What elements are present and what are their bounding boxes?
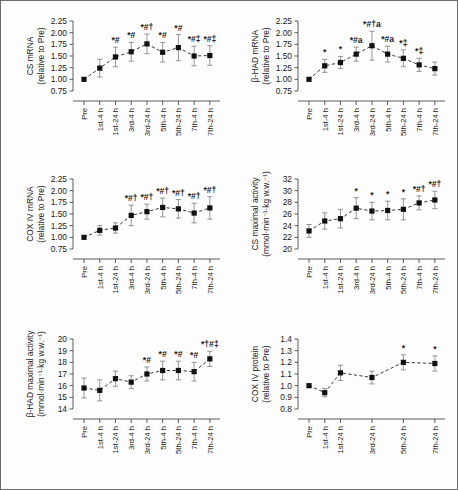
panel-cs-mrna: 0.751.001.251.501.752.002.25CS mRNA(rela…	[5, 5, 230, 163]
y-tick-label: 17	[58, 369, 68, 379]
y-tick-label: 1.25	[276, 63, 293, 73]
y-tick-label: 24	[283, 221, 293, 231]
panel-cs-maximal-activity-plot: 20222426283032CS maximal activity(mmol·m…	[230, 163, 455, 323]
y-tick-label: 1.50	[276, 51, 293, 61]
y-axis-label-line2: (relative to Pre)	[261, 27, 271, 84]
y-axis-label-line1: β-HAD maximal activity	[25, 330, 35, 418]
y-tick-label: 1.75	[276, 39, 293, 49]
data-point-marker	[207, 356, 212, 361]
x-tick-label: 1st-24 h	[336, 108, 345, 135]
significance-annotation: *#†a	[363, 19, 381, 29]
x-tick-label: 7th-4 h	[190, 266, 199, 290]
x-tick-label: 1st-24 h	[111, 266, 120, 293]
x-tick-label: 5th-24 h	[174, 266, 183, 294]
data-point-marker	[192, 369, 197, 374]
y-tick-label: 28	[283, 197, 293, 207]
y-tick-label: 1.00	[51, 74, 68, 84]
x-tick-label: 3rd-4 h	[127, 266, 136, 290]
y-tick-label: 1.50	[51, 51, 68, 61]
x-tick-label: 5th-4 h	[159, 266, 168, 290]
significance-annotation: *#‡	[203, 34, 216, 44]
x-tick-label: 1st-4 h	[96, 108, 105, 131]
x-tick-label: 7th-24 h	[206, 266, 215, 294]
x-tick-label: Pre	[305, 426, 314, 438]
data-point-marker	[81, 235, 86, 240]
data-point-marker	[401, 360, 406, 365]
data-point-marker	[129, 380, 134, 385]
data-point-marker	[322, 390, 327, 395]
y-tick-label: 1.4	[280, 334, 292, 344]
data-point-marker	[306, 77, 311, 82]
data-point-marker	[306, 228, 311, 233]
significance-annotation: *#	[143, 355, 151, 365]
panel-coxiv-mrna: 0.751.001.251.501.752.002.25COX IV mRNA(…	[5, 163, 230, 323]
x-tick-label: 5th-24 h	[399, 266, 408, 294]
data-point-marker	[354, 52, 359, 57]
y-tick-label: 1.25	[51, 63, 68, 73]
y-tick-label: 1.1	[280, 369, 292, 379]
y-tick-label: 26	[283, 209, 293, 219]
significance-annotation: *#†	[125, 193, 138, 203]
significance-annotation: *#	[159, 349, 167, 359]
x-tick-label: 5th-24 h	[174, 108, 183, 136]
data-point-marker	[97, 228, 102, 233]
significance-annotation: *#	[159, 30, 167, 40]
x-tick-label: 1st-4 h	[321, 266, 330, 289]
significance-annotation: *#	[174, 23, 182, 33]
x-tick-label: 7th-4 h	[190, 426, 199, 450]
significance-annotation: *	[386, 189, 390, 199]
x-tick-label: 3rd-4 h	[127, 426, 136, 450]
y-axis-label-line2: (mmol·min⁻¹·kg w.w.⁻¹)	[261, 171, 271, 257]
y-tick-label: 1.2	[280, 357, 292, 367]
x-tick-label: 3rd-24 h	[368, 266, 377, 294]
x-tick-label: 1st-4 h	[96, 266, 105, 289]
y-tick-label: 0.75	[51, 86, 68, 96]
y-tick-label: 1.75	[51, 197, 68, 207]
significance-annotation: *‡	[415, 46, 423, 56]
significance-annotation: *#†	[203, 185, 216, 195]
x-tick-label: 3rd-24 h	[143, 266, 152, 294]
x-tick-label: 7th-4 h	[190, 108, 199, 132]
significance-annotation: *	[355, 186, 359, 196]
data-point-marker	[432, 66, 437, 71]
significance-annotation: *#†	[428, 179, 441, 189]
y-tick-label: 15	[58, 392, 68, 402]
significance-annotation: *#a	[350, 35, 363, 45]
x-tick-label: 5th-4 h	[159, 108, 168, 132]
significance-annotation: *#†	[413, 184, 426, 194]
x-tick-label: 5th-4 h	[384, 266, 393, 290]
significance-annotation: *#†	[172, 188, 185, 198]
significance-annotation: *#†	[156, 186, 169, 196]
y-tick-label: 1.75	[51, 39, 68, 49]
x-tick-label: 5th-4 h	[384, 108, 393, 132]
data-point-marker	[129, 49, 134, 54]
y-axis-label-line1: CS mRNA	[25, 36, 35, 75]
data-point-marker	[207, 205, 212, 210]
significance-annotation: *	[402, 187, 406, 197]
data-point-marker	[338, 216, 343, 221]
x-tick-label: 5th-24 h	[174, 426, 183, 454]
significance-annotation: *#†	[140, 192, 153, 202]
x-tick-label: 5th-24 h	[399, 108, 408, 136]
data-point-marker	[207, 53, 212, 58]
y-axis-label-line2: (relative to Pre)	[36, 27, 46, 84]
data-point-marker	[385, 52, 390, 57]
y-axis-label-line2: (mmol·min⁻¹·kg w.w.⁻¹)	[36, 331, 46, 417]
data-point-marker	[81, 385, 86, 390]
y-tick-label: 1.00	[51, 232, 68, 242]
significance-annotation: *#‡	[188, 34, 201, 44]
data-point-marker	[176, 206, 181, 211]
y-tick-label: 22	[283, 232, 293, 242]
x-tick-label: Pre	[305, 108, 314, 120]
significance-annotation: *	[370, 190, 374, 200]
significance-annotation: *†#‡	[201, 339, 219, 349]
x-tick-label: 3rd-4 h	[352, 108, 361, 132]
y-tick-label: 1.50	[51, 209, 68, 219]
x-tick-label: 3rd-4 h	[127, 108, 136, 132]
figure-container: 0.751.001.251.501.752.002.25CS mRNA(rela…	[0, 0, 458, 490]
data-point-marker	[97, 388, 102, 393]
data-point-marker	[192, 210, 197, 215]
data-point-marker	[338, 60, 343, 65]
x-tick-label: 7th-24 h	[206, 108, 215, 136]
panel-bhad-mrna: 0.751.001.251.501.752.002.25β-HAD mRNA(r…	[230, 5, 455, 163]
